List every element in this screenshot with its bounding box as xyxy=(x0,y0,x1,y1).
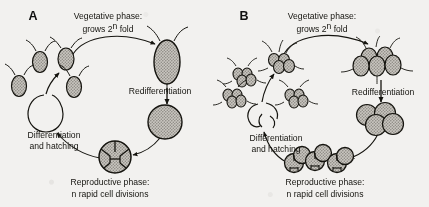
label-a-reproductive-line2: n rapid cell divisions xyxy=(72,189,149,199)
label-b-differentiation-line1: Differentiation xyxy=(250,133,303,143)
label-b-differentiation-line2: and hatching xyxy=(251,144,300,154)
label-a-reproductive-line1: Reproductive phase: xyxy=(71,177,150,187)
label-a-redifferentiation: Redifferentiation xyxy=(129,86,192,96)
label-a-differentiation-line1: Differentiation xyxy=(28,130,81,140)
label-a-grows-prefix: grows 2 xyxy=(82,24,112,34)
label-a-vegetative-line1: Vegetative phase: xyxy=(74,11,142,21)
figure-background xyxy=(0,0,429,207)
label-b-redifferentiation: Redifferentiation xyxy=(352,87,415,97)
cell-a-dividing-four-quadrants xyxy=(99,141,131,173)
label-b-grows-suffix: fold xyxy=(331,24,347,34)
label-b-reproductive-line1: Reproductive phase: xyxy=(286,177,365,187)
label-a-differentiation-line2: and hatching xyxy=(29,141,78,151)
label-b-reproductive-line2: n rapid cell divisions xyxy=(287,189,364,199)
panel-b-letter: B xyxy=(239,9,248,23)
figure-root: A xyxy=(0,0,429,207)
panel-a-letter: A xyxy=(28,9,37,23)
life-cycle-figure: A xyxy=(0,0,429,207)
cell-a-round-redifferentiated xyxy=(148,105,182,139)
label-b-vegetative-line1: Vegetative phase: xyxy=(288,11,356,21)
label-a-grows-suffix: fold xyxy=(117,24,133,34)
label-b-grows-prefix: grows 2 xyxy=(296,24,326,34)
